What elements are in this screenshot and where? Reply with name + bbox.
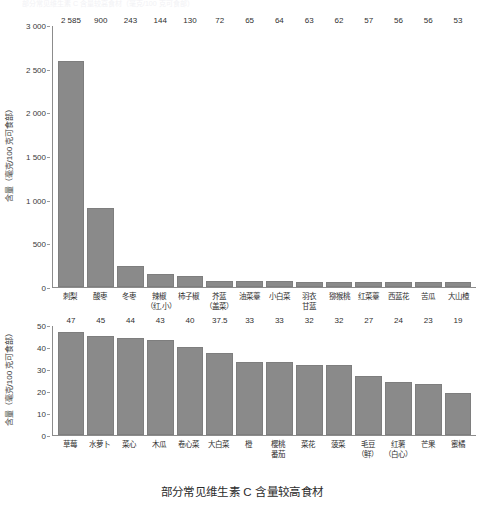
bar-value-label: 24: [394, 316, 403, 325]
x-axis-label: 大山楂: [445, 292, 472, 311]
bar-item[interactable]: 56: [415, 26, 442, 287]
bar-rect[interactable]: [415, 384, 442, 435]
bar-item[interactable]: 40: [177, 326, 204, 435]
y-tick-label: 30: [37, 366, 46, 375]
bar-item[interactable]: 62: [326, 26, 353, 287]
bar-rect[interactable]: [445, 393, 472, 435]
x-axis-label: 油菜薹: [236, 292, 263, 311]
bar-rect[interactable]: [117, 338, 144, 435]
bar-item[interactable]: 33: [236, 326, 263, 435]
bar-item[interactable]: 19: [445, 326, 472, 435]
bar-value-label: 65: [245, 16, 254, 25]
bar-rect[interactable]: [236, 281, 263, 287]
bar-value-label: 32: [305, 316, 314, 325]
bar-item[interactable]: 56: [385, 26, 412, 287]
bar-rect[interactable]: [117, 266, 144, 287]
bar-rect[interactable]: [87, 208, 114, 287]
bar-item[interactable]: 33: [266, 326, 293, 435]
y-tick-label: 1 500: [26, 153, 46, 162]
bar-rect[interactable]: [236, 362, 263, 435]
y-tick-mark: [47, 326, 50, 327]
bar-item[interactable]: 45: [87, 326, 114, 435]
bar-item[interactable]: 57: [355, 26, 382, 287]
bar-rect[interactable]: [296, 365, 323, 435]
bar-rect[interactable]: [266, 281, 293, 287]
bar-item[interactable]: 23: [415, 326, 442, 435]
x-axis-label: 橙: [235, 440, 262, 459]
bar-item[interactable]: 64: [266, 26, 293, 287]
bar-item[interactable]: 37.5: [206, 326, 233, 435]
y-tick-mark: [47, 244, 50, 245]
y-tick-mark: [47, 26, 50, 27]
x-axis-label: 毛豆 （鲜）: [354, 440, 381, 459]
bar-rect[interactable]: [385, 382, 412, 435]
bar-item[interactable]: 63: [296, 26, 323, 287]
x-axis-label: 樱桃 番茄: [265, 440, 292, 459]
y-axis-title-text-top: 含量（毫克/100 克可食部）: [4, 104, 15, 202]
bar-item[interactable]: 144: [147, 26, 174, 287]
x-axis-label: 羽衣 甘蓝: [296, 292, 323, 311]
bar-item[interactable]: 65: [236, 26, 263, 287]
bar-item[interactable]: 2 585: [58, 26, 85, 287]
bar-rect[interactable]: [415, 282, 442, 287]
bar-item[interactable]: 27: [355, 326, 382, 435]
bar-item[interactable]: 47: [58, 326, 85, 435]
y-axis-title-text-bottom: 含量（毫克/100 克可食部）: [4, 328, 15, 426]
bar-rect[interactable]: [385, 282, 412, 287]
bar-value-label: 57: [364, 16, 373, 25]
x-axis-label: 西蓝花: [385, 292, 412, 311]
y-axis-ticks-top: 05001 0001 5002 0002 5003 000: [16, 18, 50, 288]
bar-value-label: 900: [94, 16, 107, 25]
bar-rect[interactable]: [445, 282, 472, 287]
y-tick-label: 1 000: [26, 196, 46, 205]
bar-rect[interactable]: [147, 340, 174, 435]
bar-rect[interactable]: [355, 376, 382, 435]
x-axis-labels-top: 刺梨酸枣冬枣辣椒 （红,小）柿子椒芥蓝 （盖菜）油菜薹小白菜羽衣 甘蓝猕猴桃红菜…: [52, 292, 476, 311]
bar-item[interactable]: 900: [87, 26, 114, 287]
bar-value-label: 243: [124, 16, 137, 25]
y-axis-ticks-bottom: 01020304050: [16, 318, 50, 436]
bar-rect[interactable]: [296, 282, 323, 288]
bar-value-label: 32: [334, 316, 343, 325]
bar-item[interactable]: 32: [326, 326, 353, 435]
bar-value-label: 56: [424, 16, 433, 25]
bar-item[interactable]: 44: [117, 326, 144, 435]
bar-rect[interactable]: [147, 274, 174, 287]
bar-rect[interactable]: [177, 347, 204, 435]
bar-rect[interactable]: [58, 61, 85, 287]
y-tick-label: 10: [37, 410, 46, 419]
bar-rect[interactable]: [326, 365, 353, 435]
bar-item[interactable]: 243: [117, 26, 144, 287]
bar-rect[interactable]: [177, 276, 204, 287]
y-tick-mark: [47, 288, 50, 289]
bar-rect[interactable]: [326, 282, 353, 287]
bar-series-top: 2 585900243144130726564636257565653: [53, 26, 476, 287]
x-axis-label: 菠菜: [324, 440, 351, 459]
y-tick-mark: [47, 370, 50, 371]
figure-caption: 部分常见维生素 C 含量较高食材: [0, 483, 484, 499]
x-axis-label: 芒果: [415, 440, 442, 459]
x-axis-label: 红薯 （白心）: [384, 440, 412, 459]
bar-value-label: 62: [334, 16, 343, 25]
y-tick-mark: [47, 157, 50, 158]
bar-rect[interactable]: [87, 336, 114, 435]
bar-item[interactable]: 24: [385, 326, 412, 435]
bar-rect[interactable]: [206, 281, 233, 287]
bar-item[interactable]: 32: [296, 326, 323, 435]
bar-value-label: 33: [245, 316, 254, 325]
bar-value-label: 19: [454, 316, 463, 325]
x-axis-label: 猕猴桃: [326, 292, 353, 311]
bar-item[interactable]: 53: [445, 26, 472, 287]
x-axis-label: 刺梨: [57, 292, 84, 311]
bar-series-bottom: 474544434037.53333323227242319: [53, 326, 476, 435]
bar-chart-bottom: 含量（毫克/100 克可食部） 01020304050 474544434037…: [0, 318, 484, 478]
bar-rect[interactable]: [58, 332, 85, 435]
bar-value-label: 72: [215, 16, 224, 25]
bar-item[interactable]: 72: [206, 26, 233, 287]
bar-rect[interactable]: [355, 282, 382, 287]
bar-item[interactable]: 130: [177, 26, 204, 287]
bar-item[interactable]: 43: [147, 326, 174, 435]
bar-rect[interactable]: [206, 353, 233, 436]
bar-rect[interactable]: [266, 362, 293, 435]
y-tick-mark: [47, 113, 50, 114]
